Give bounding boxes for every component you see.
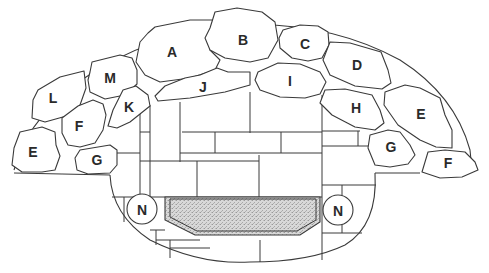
label-j: J <box>199 79 207 95</box>
label-m: M <box>104 70 116 86</box>
label-h: H <box>351 100 361 116</box>
label-n-right: N <box>333 203 343 219</box>
label-i: I <box>288 73 292 89</box>
label-n-left: N <box>137 202 147 218</box>
label-e-right: E <box>416 106 425 122</box>
label-a: A <box>167 44 177 60</box>
n-fixture-right: N <box>323 195 353 225</box>
label-f-left: F <box>75 118 84 134</box>
label-l: L <box>49 90 58 106</box>
label-g-left: G <box>92 152 103 168</box>
label-k: K <box>124 99 134 115</box>
label-c: C <box>300 36 310 52</box>
label-e-left: E <box>28 144 37 160</box>
hearth-slab <box>165 197 320 235</box>
label-f-right: F <box>444 155 453 171</box>
label-d: D <box>352 57 362 73</box>
label-b: B <box>238 32 248 48</box>
label-g-right: G <box>386 139 397 155</box>
n-fixture-left: N <box>127 194 157 224</box>
patio-diagram: A B C D E F G H I J K M L F E G N N <box>0 0 489 273</box>
